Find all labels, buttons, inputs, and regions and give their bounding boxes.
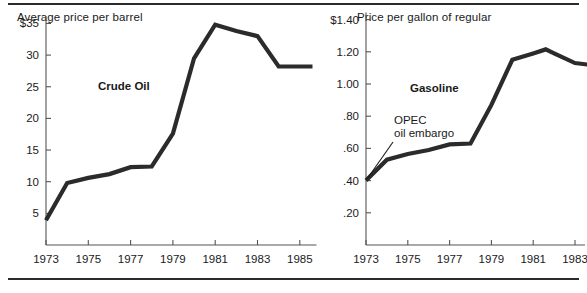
x-tick-label: 1973 — [33, 253, 59, 265]
x-tick-label: 1979 — [479, 253, 505, 265]
y-tick-label: 25 — [26, 81, 39, 93]
x-tick-label: 1981 — [520, 253, 546, 265]
x-tick-label: 1983 — [562, 253, 587, 265]
x-tick-label: 1975 — [76, 253, 102, 265]
y-tick-label: .60 — [343, 142, 359, 154]
x-tick-label: 1983 — [245, 253, 271, 265]
y-tick-label: $35 — [20, 17, 39, 29]
x-tick-label: 1973 — [353, 253, 379, 265]
chart-panel-crude-oil: Average price per barrel 51015202530$351… — [0, 0, 340, 293]
y-tick-label: .80 — [343, 110, 359, 122]
x-tick-label: 1985 — [287, 253, 313, 265]
annotation-opec-oil-embargo-line1: OPEC — [394, 114, 427, 126]
chart-svg-gasoline: .20.40.60.801.001.20$1.40197319751977197… — [340, 0, 587, 293]
figure-container: Average price per barrel 51015202530$351… — [0, 0, 587, 293]
chart-svg-crude-oil: 51015202530$3519731975197719791981198319… — [0, 0, 340, 293]
x-tick-label: 1979 — [160, 253, 186, 265]
series-label-gasoline: Gasoline — [410, 82, 459, 94]
y-tick-label: 1.20 — [337, 46, 359, 58]
x-tick-label: 1981 — [202, 253, 228, 265]
y-tick-label: .40 — [343, 175, 359, 187]
series-label-crude-oil: Crude Oil — [98, 80, 150, 92]
y-tick-label: $1.40 — [330, 14, 359, 26]
y-tick-label: 5 — [33, 207, 39, 219]
chart-panel-gasoline: Price per gallon of regular .20.40.60.80… — [340, 0, 587, 293]
x-tick-label: 1975 — [395, 253, 421, 265]
x-tick-label: 1977 — [118, 253, 144, 265]
y-tick-label: 15 — [26, 144, 39, 156]
y-tick-label: 1.00 — [337, 78, 359, 90]
y-tick-label: 30 — [26, 49, 39, 61]
annotation-opec-oil-embargo-line2: oil embargo — [394, 127, 454, 139]
x-tick-label: 1977 — [437, 253, 463, 265]
y-tick-label: .20 — [343, 207, 359, 219]
y-tick-label: 10 — [26, 176, 39, 188]
data-line-crude-oil — [46, 25, 312, 221]
y-tick-label: 20 — [26, 112, 39, 124]
